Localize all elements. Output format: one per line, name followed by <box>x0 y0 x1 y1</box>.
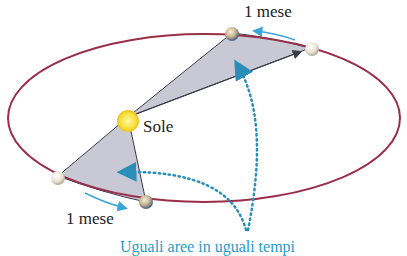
dotted-arrow-to-top-sector <box>238 66 257 230</box>
planet-top-right-icon <box>305 42 319 56</box>
sun-label: Sole <box>143 117 173 137</box>
sun-icon <box>117 110 139 132</box>
area-sector-top <box>128 33 310 117</box>
planet-top-left-icon <box>225 27 239 41</box>
caption-label: Uguali aree in uguali tempi <box>120 238 295 256</box>
planet-bottom-left-icon <box>51 171 65 185</box>
planet-bottom-right-icon <box>139 195 153 209</box>
interval-label-bottom: 1 mese <box>66 209 114 229</box>
interval-label-top: 1 mese <box>244 2 292 22</box>
